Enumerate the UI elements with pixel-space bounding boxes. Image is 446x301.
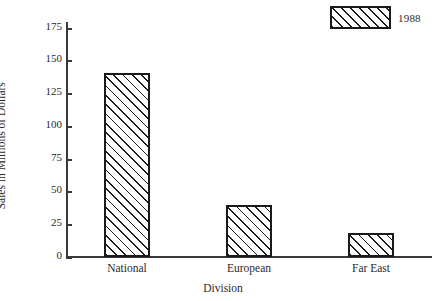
category-label-national: National [107, 263, 147, 275]
plot-area: 0255075100125150175 [66, 22, 432, 258]
bar-chart-figure: 1988 Sales in Millions of Dollars 025507… [0, 0, 446, 301]
y-axis-title: Sales in Millions of Dollars [0, 82, 8, 209]
y-tick-label: 125 [46, 86, 63, 97]
y-axis-line [66, 22, 68, 258]
y-tick-label: 0 [57, 250, 63, 261]
y-tick-label: 25 [51, 217, 62, 228]
bar-european [226, 205, 272, 257]
y-tick-mark [66, 191, 72, 193]
category-label-european: European [227, 263, 271, 275]
y-tick-mark [66, 126, 72, 128]
y-tick-label: 50 [51, 184, 62, 195]
category-label-far-east: Far East [352, 263, 390, 275]
y-tick-mark [66, 93, 72, 95]
y-tick-label: 75 [51, 152, 62, 163]
y-tick-mark [66, 28, 72, 30]
x-axis-title: Division [203, 283, 243, 295]
y-tick-label: 100 [46, 119, 63, 130]
y-tick-label: 175 [46, 21, 63, 32]
y-tick-mark [66, 60, 72, 62]
bar-far-east [348, 233, 394, 257]
y-tick-mark [66, 159, 72, 161]
y-tick-label: 150 [46, 53, 63, 64]
y-tick-mark [66, 224, 72, 226]
y-tick-mark [66, 257, 72, 259]
bar-national [104, 73, 150, 257]
